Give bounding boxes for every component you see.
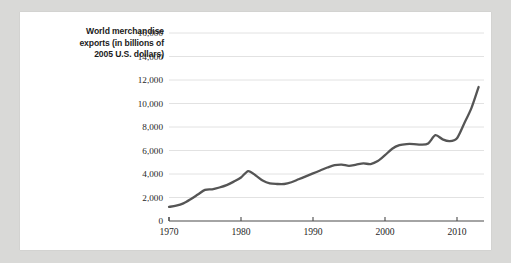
y-axis-tick-label: 6,000: [142, 146, 163, 156]
x-axis-tick-labels: 19701980199020002010: [159, 226, 466, 237]
chart-card: World merchandise exports (in billions o…: [20, 12, 491, 250]
y-axis-tick-label: 8,000: [142, 122, 163, 132]
y-axis-tick-label: 4,000: [142, 169, 163, 179]
y-axis-tick-label: 16,000: [138, 28, 164, 38]
plot-area: 02,0004,0006,0008,00010,00012,00014,0001…: [20, 12, 491, 250]
y-axis-tick-label: 2,000: [142, 193, 163, 203]
data-line: [169, 87, 479, 207]
x-axis-tick-label: 1980: [231, 226, 250, 237]
page-root: World merchandise exports (in billions o…: [0, 0, 511, 263]
x-axis-tick-label: 1990: [303, 226, 322, 237]
y-axis-tick-labels: 02,0004,0006,0008,00010,00012,00014,0001…: [138, 28, 164, 226]
x-axis-tick-label: 2000: [375, 226, 394, 237]
x-axis-line: [169, 217, 484, 221]
grid-lines: [169, 33, 484, 198]
y-axis-tick-label: 14,000: [138, 52, 164, 62]
data-series-group: [169, 87, 479, 207]
y-axis-tick-label: 12,000: [138, 75, 164, 85]
y-axis-tick-label: 10,000: [138, 99, 164, 109]
x-axis-tick-marks: [169, 217, 457, 221]
x-axis-tick-label: 2010: [447, 226, 466, 237]
x-axis-tick-label: 1970: [159, 226, 178, 237]
y-axis-tick-label: 0: [158, 216, 163, 226]
line-chart-svg: 02,0004,0006,0008,00010,00012,00014,0001…: [20, 12, 491, 250]
